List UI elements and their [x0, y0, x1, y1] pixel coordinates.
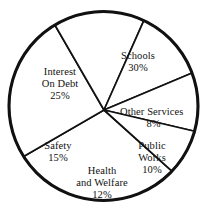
slice-label-interest-on-debt: Interest On Debt 25% — [25, 66, 95, 101]
slice-label-other-services-name: Other Services — [120, 106, 205, 118]
slice-label-schools: Schools 30% — [106, 50, 170, 74]
slice-label-schools-value: 30% — [106, 62, 170, 74]
slice-label-other-services-value: 8% — [120, 118, 205, 130]
pie-chart-figure: Schools 30% Interest On Debt 25% Other S… — [0, 0, 205, 212]
slice-label-interest-on-debt-name-line1: Interest — [25, 66, 95, 78]
slice-label-health-and-welfare-value: 12% — [61, 189, 143, 201]
slice-label-interest-on-debt-name-line2: On Debt — [25, 78, 95, 90]
slice-label-interest-on-debt-value: 25% — [25, 90, 95, 102]
slice-label-health-and-welfare-name-line1: Health — [61, 165, 143, 177]
slice-label-public-works-name-line2: Works — [122, 152, 182, 164]
slice-label-safety-value: 15% — [27, 152, 89, 164]
slice-label-safety: Safety 15% — [27, 140, 89, 164]
slice-label-safety-name: Safety — [27, 140, 89, 152]
slice-label-public-works-name-line1: Public — [122, 140, 182, 152]
slice-label-health-and-welfare: Health and Welfare 12% — [61, 165, 143, 200]
slice-label-health-and-welfare-name-line2: and Welfare — [61, 177, 143, 189]
slice-label-other-services: Other Services 8% — [120, 106, 205, 130]
slice-label-schools-name: Schools — [106, 50, 170, 62]
